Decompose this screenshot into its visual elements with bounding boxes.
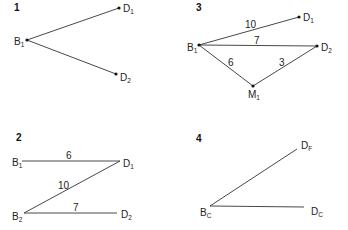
panel-3: 3 B1 D1 D2 M1 10 7 6 3 [187, 2, 332, 101]
node-label-b1: B1 [12, 157, 23, 169]
edge-weight: 6 [228, 57, 234, 68]
node-label-df: DF [301, 140, 312, 152]
panel-2: 2 B1 D1 B2 D2 6 10 7 [12, 132, 134, 223]
node-label-b1: B1 [14, 36, 25, 48]
node-label-d1: D1 [123, 3, 134, 15]
network-diagrams: 1 B1 D1 D2 3 B1 D1 D2 M1 10 7 6 3 2 B1 D [0, 0, 348, 230]
edge-weight: 10 [58, 180, 70, 191]
node-dot-d2 [114, 72, 117, 75]
node-label-d1: D1 [303, 12, 314, 24]
node-label-d1: D1 [123, 158, 134, 170]
edge-m1-d2 [253, 46, 317, 86]
node-label-b1: B1 [187, 42, 198, 54]
edge-weight: 7 [73, 202, 79, 213]
node-label-d2: D2 [321, 42, 332, 54]
panel-number: 2 [16, 132, 22, 143]
node-dot-m1 [251, 84, 254, 87]
panel-4: 4 BC DF DC [196, 133, 323, 219]
edge-weight: 6 [66, 150, 72, 161]
edge-bc-df [210, 149, 297, 206]
edge-weight: 3 [279, 57, 285, 68]
node-dot-b1 [197, 43, 200, 46]
edge-d1-b2 [24, 161, 120, 213]
node-dot-d1 [297, 15, 300, 18]
node-label-d2: D2 [121, 209, 132, 221]
node-label-b2: B2 [12, 211, 23, 223]
node-dot-d2 [315, 44, 318, 47]
panel-number: 4 [196, 133, 202, 144]
edge-b1-m1 [199, 45, 253, 86]
node-label-dc: DC [311, 206, 323, 218]
panel-number: 3 [196, 2, 202, 13]
node-label-m1: M1 [248, 89, 260, 101]
edge-bc-dc [210, 206, 304, 207]
edge-b1-d2 [27, 40, 116, 74]
edge-b1-d1 [27, 8, 119, 40]
node-dot-d1 [117, 6, 120, 9]
edge-weight: 10 [245, 19, 257, 30]
panel-number: 1 [14, 2, 20, 13]
node-label-bc: BC [200, 207, 212, 219]
edge-weight: 7 [254, 35, 260, 46]
node-dot-b1 [25, 38, 28, 41]
node-label-d2: D2 [120, 72, 131, 84]
panel-1: 1 B1 D1 D2 [14, 2, 134, 84]
